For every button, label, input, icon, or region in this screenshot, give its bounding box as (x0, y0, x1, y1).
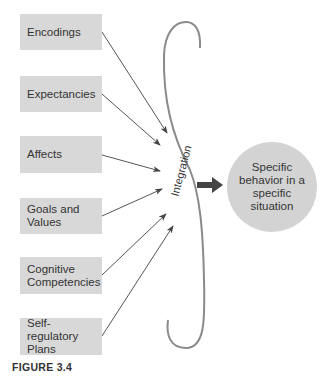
input-arrows (102, 32, 173, 336)
input-label: Self-regulatory Plans (27, 317, 101, 356)
input-label: Encodings (27, 26, 81, 39)
input-label: Affects (27, 148, 62, 161)
arrow-self-regulatory (102, 226, 173, 336)
figure-label: FIGURE 3.4 (12, 361, 72, 373)
thick-arrow (197, 177, 223, 193)
arrow-expectancies (102, 94, 160, 145)
arrow-affects (102, 155, 160, 171)
input-box-expectancies: Expectancies (20, 76, 102, 112)
input-box-self-regulatory-plans: Self-regulatory Plans (20, 318, 102, 355)
input-label: Expectancies (27, 88, 95, 101)
arrow-cognitive (102, 214, 166, 275)
input-box-affects: Affects (20, 136, 102, 173)
input-box-cognitive-competencies: Cognitive Competencies (20, 257, 102, 294)
input-box-encodings: Encodings (20, 14, 102, 50)
arrow-goals (102, 189, 162, 216)
arrow-encodings (102, 32, 167, 133)
output-label: Specific behavior in a specific situatio… (227, 142, 317, 232)
input-label: Cognitive Competencies (27, 263, 97, 289)
input-box-goals-values: Goals and Values (20, 198, 102, 234)
output-text: Specific behavior in a specific situatio… (235, 161, 309, 213)
input-label: Goals and Values (27, 203, 89, 229)
